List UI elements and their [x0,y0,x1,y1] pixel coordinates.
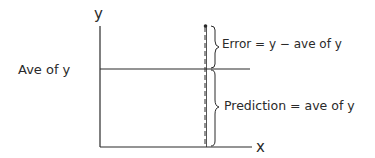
data-point [204,24,208,28]
prediction-annotation: Prediction = ave of y [224,98,355,113]
average-label: Ave of y [18,62,71,77]
x-axis-label: x [256,138,265,156]
error-brace-icon [211,26,219,68]
error-annotation: Error = y − ave of y [222,37,342,51]
y-axis-label: y [94,5,103,23]
prediction-brace-icon [211,70,219,146]
regression-error-diagram: y x Ave of y Error = y − ave of y Predic… [0,0,375,158]
